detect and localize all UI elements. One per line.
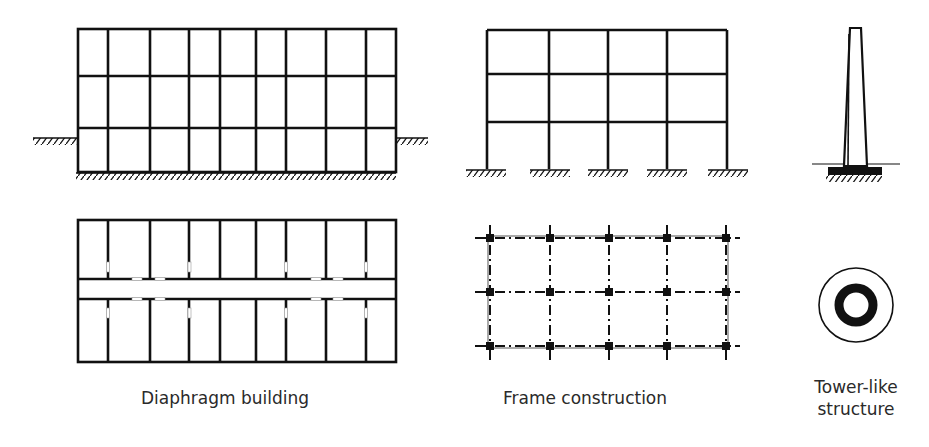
diaphragm-building-label: Diaphragm building xyxy=(100,387,350,409)
ground-hatching xyxy=(33,138,428,180)
diaphragm-plan xyxy=(78,220,396,362)
diaphragm-elevation xyxy=(78,29,396,172)
tower-structure-label: Tower-like structure xyxy=(796,376,916,420)
structure-types-diagram xyxy=(0,0,929,447)
frame-construction-label: Frame construction xyxy=(470,387,700,409)
frame-elevation xyxy=(487,30,727,169)
tower-plan xyxy=(819,268,893,342)
door-openings xyxy=(107,262,368,318)
tower-label-line2: structure xyxy=(796,398,916,420)
tower-elevation xyxy=(812,28,900,182)
frame-supports xyxy=(466,170,748,177)
frame-plan xyxy=(475,225,740,360)
tower-label-line1: Tower-like xyxy=(796,376,916,398)
